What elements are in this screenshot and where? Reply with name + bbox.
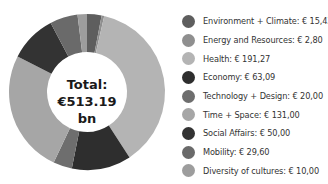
legend-item-social: Social Affairs: € 50,00 [182, 124, 328, 143]
legend-dot-icon [182, 108, 195, 121]
legend-item-diversity: Diversity of cultures: € 10,00 [182, 162, 328, 181]
legend-dot-icon [182, 34, 195, 47]
legend-dot-icon [182, 127, 195, 140]
total-label: Total: €513.19 bn [47, 76, 127, 127]
legend-dot-icon [182, 146, 195, 159]
legend-dot-icon [182, 90, 195, 103]
legend: Environment + Climate: € 15,43 Energy an… [182, 12, 328, 180]
legend-dot-icon [182, 71, 195, 84]
legend-dot-icon [182, 15, 195, 28]
legend-item-time-space: Time + Space: € 131,00 [182, 105, 328, 124]
legend-item-environment: Environment + Climate: € 15,43 [182, 12, 328, 31]
legend-item-energy: Energy and Resources: € 2,80 [182, 31, 328, 50]
legend-dot-icon [182, 164, 195, 177]
legend-item-technology: Technology + Design: € 20,00 [182, 87, 328, 106]
legend-item-health: Health: € 191,27 [182, 49, 328, 68]
legend-item-economy: Economy: € 63,09 [182, 68, 328, 87]
total-title: Total: [47, 76, 127, 93]
legend-dot-icon [182, 52, 195, 65]
total-value: €513.19 bn [47, 93, 127, 127]
legend-item-mobility: Mobility: € 29,60 [182, 143, 328, 162]
